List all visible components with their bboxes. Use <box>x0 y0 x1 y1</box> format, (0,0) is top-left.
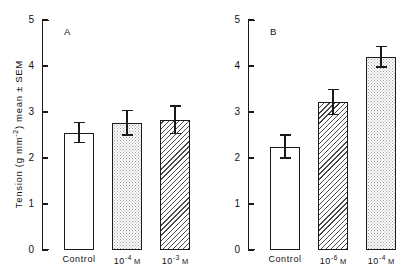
error-bar-cap-lower <box>170 133 181 134</box>
x-axis-label: Control <box>261 254 309 264</box>
error-bar <box>64 123 94 250</box>
error-bar-cap-upper <box>328 89 339 90</box>
y-axis-title: Tension (g mm-2) mean ± SEM <box>12 34 24 234</box>
error-bar-cap-upper <box>74 122 85 123</box>
y-axis-spine <box>248 20 249 250</box>
figure-canvas: Tension (g mm-2) mean ± SEM A 012345 Con… <box>0 0 413 279</box>
y-tick-mark <box>248 203 254 204</box>
y-tick-mark <box>42 111 48 112</box>
panel-a: Tension (g mm-2) mean ± SEM A 012345 Con… <box>0 0 207 279</box>
panel-b: B 012345 Control10-6 M10-4 M <box>206 0 413 279</box>
y-tick-mark <box>42 65 48 66</box>
y-tick-label: 5 <box>234 15 240 25</box>
y-axis-spine <box>42 20 43 250</box>
y-tick-label: 5 <box>28 15 34 25</box>
panel-letter-a: A <box>64 26 71 37</box>
y-tick-label: 1 <box>28 199 34 209</box>
error-bar-cap-lower <box>328 114 339 115</box>
error-bar <box>160 106 190 250</box>
error-bar-cap-lower <box>376 66 387 67</box>
y-axis-title-main: Tension (g mm <box>13 137 24 208</box>
y-tick-mark <box>248 111 254 112</box>
y-tick-label: 3 <box>28 107 34 117</box>
error-bar-cap-upper <box>376 46 387 47</box>
y-tick-mark <box>42 19 48 20</box>
error-bar <box>366 47 396 250</box>
y-tick-label: 2 <box>28 153 34 163</box>
error-bar <box>112 110 142 250</box>
y-tick-mark <box>248 157 254 158</box>
y-tick-mark <box>248 65 254 66</box>
panel-letter-b: B <box>270 26 277 37</box>
y-axis-title-exponent: -2 <box>12 129 19 137</box>
error-bar-line <box>284 135 285 158</box>
y-tick-label: 4 <box>234 61 240 71</box>
y-tick-label: 1 <box>234 199 240 209</box>
error-bar <box>318 89 348 250</box>
error-bar-line <box>332 89 333 114</box>
y-tick-label: 0 <box>234 245 240 255</box>
y-tick-label: 2 <box>234 153 240 163</box>
x-axis-label: 10-6 M <box>309 254 357 266</box>
y-tick-mark <box>248 249 254 250</box>
x-axis-label: 10-4 M <box>357 254 405 266</box>
error-bar-cap-upper <box>170 105 181 106</box>
plot-area-a: A 012345 Control10-4 M10-3 M <box>42 20 202 250</box>
error-bar-cap-lower <box>280 157 291 158</box>
error-bar-line <box>78 123 79 143</box>
error-bar <box>270 135 300 250</box>
error-bar-line <box>380 47 381 67</box>
error-bar-cap-lower <box>74 142 85 143</box>
y-tick-label: 3 <box>234 107 240 117</box>
x-axis-label: 10-4 M <box>103 254 151 266</box>
y-tick-mark <box>42 157 48 158</box>
y-tick-mark <box>42 203 48 204</box>
y-tick-label: 4 <box>28 61 34 71</box>
y-tick-mark <box>42 249 48 250</box>
error-bar-cap-upper <box>122 110 133 111</box>
error-bar-line <box>174 106 175 134</box>
error-bar-cap-upper <box>280 134 291 135</box>
x-axis-label: Control <box>55 254 103 264</box>
error-bar-line <box>126 110 127 135</box>
y-tick-mark <box>248 19 254 20</box>
x-axis-label: 10-3 M <box>151 254 199 266</box>
y-tick-label: 0 <box>28 245 34 255</box>
plot-area-b: B 012345 Control10-6 M10-4 M <box>248 20 410 250</box>
error-bar-cap-lower <box>122 134 133 135</box>
y-axis-title-tail: ) mean ± SEM <box>13 60 24 129</box>
